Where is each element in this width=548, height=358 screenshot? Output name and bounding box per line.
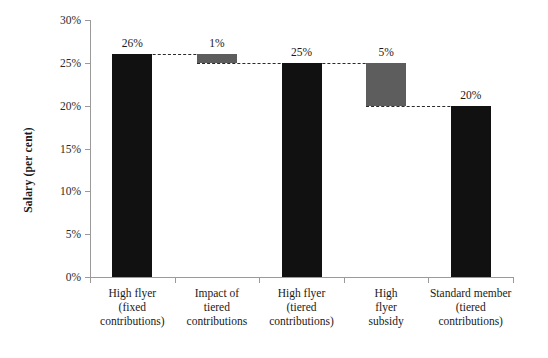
bar-value-label: 25% bbox=[291, 46, 312, 58]
y-tick-mark bbox=[85, 191, 90, 192]
y-tick-mark bbox=[85, 63, 90, 64]
bar bbox=[451, 106, 491, 277]
category-label: High flyer(tieredcontributions) bbox=[269, 286, 334, 328]
category-label-line: High flyer bbox=[269, 286, 334, 300]
category-label-line: contributions) bbox=[100, 314, 165, 328]
bar bbox=[282, 63, 322, 277]
category-label-line: (tiered bbox=[430, 300, 511, 314]
category-label: Impact oftieredcontributions bbox=[187, 286, 248, 328]
waterfall-chart: Salary (per cent) 0%5%10%15%20%25%30% 26… bbox=[0, 0, 548, 358]
x-tick-mark bbox=[428, 277, 429, 283]
x-tick-mark bbox=[344, 277, 345, 283]
category-label-line: tiered bbox=[187, 300, 248, 314]
y-tick-label: 30% bbox=[60, 14, 81, 26]
y-tick-label: 5% bbox=[66, 228, 81, 240]
category-label-line: High flyer bbox=[100, 286, 165, 300]
category-label-line: (fixed bbox=[100, 300, 165, 314]
category-label: Highflyersubsidy bbox=[369, 286, 404, 328]
bar bbox=[197, 54, 237, 63]
category-label: High flyer(fixedcontributions) bbox=[100, 286, 165, 328]
bar-value-label: 5% bbox=[378, 46, 393, 58]
x-axis-line bbox=[90, 277, 513, 278]
y-tick-mark bbox=[85, 20, 90, 21]
y-axis-title: Salary (per cent) bbox=[22, 90, 34, 250]
x-tick-mark bbox=[513, 277, 514, 283]
bar-value-label: 26% bbox=[122, 37, 143, 49]
category-label-line: contributions bbox=[187, 314, 248, 328]
category-label-line: Standard member bbox=[430, 286, 511, 300]
y-tick-label: 0% bbox=[66, 271, 81, 283]
category-label-line: flyer bbox=[369, 300, 404, 314]
category-label-line: contributions) bbox=[269, 314, 334, 328]
y-tick-mark bbox=[85, 106, 90, 107]
category-label-line: contributions) bbox=[430, 314, 511, 328]
category-label-line: High bbox=[369, 286, 404, 300]
y-tick-label: 25% bbox=[60, 57, 81, 69]
y-tick-label: 20% bbox=[60, 100, 81, 112]
y-tick-mark bbox=[85, 149, 90, 150]
y-tick-label: 15% bbox=[60, 143, 81, 155]
category-label-line: (tiered bbox=[269, 300, 334, 314]
category-label-line: subsidy bbox=[369, 314, 404, 328]
bar-value-label: 1% bbox=[209, 37, 224, 49]
category-label-line: Impact of bbox=[187, 286, 248, 300]
bar-value-label: 20% bbox=[460, 89, 481, 101]
y-tick-mark bbox=[85, 234, 90, 235]
y-axis-line bbox=[90, 20, 91, 277]
plot-area: 0%5%10%15%20%25%30% 26%1%25%5%20% bbox=[90, 20, 513, 277]
y-tick-label: 10% bbox=[60, 185, 81, 197]
x-tick-mark bbox=[259, 277, 260, 283]
bar bbox=[366, 63, 406, 106]
x-tick-mark bbox=[175, 277, 176, 283]
bar bbox=[112, 54, 152, 277]
category-label: Standard member(tieredcontributions) bbox=[430, 286, 511, 328]
x-tick-mark bbox=[90, 277, 91, 283]
